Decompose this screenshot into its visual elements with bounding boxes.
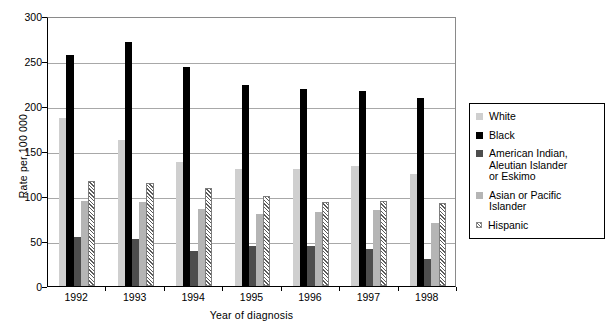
y-tick-mark [42, 17, 47, 18]
bar [263, 196, 270, 286]
legend-item: Hispanic [476, 220, 599, 232]
y-tick-label: 250 [16, 57, 42, 67]
legend-item-label: Hispanic [488, 220, 528, 232]
bar [366, 249, 373, 286]
bar [380, 201, 387, 286]
y-tick-label: 200 [16, 102, 42, 112]
x-tick-mark [398, 287, 399, 291]
y-tick-mark [42, 197, 47, 198]
x-tick-label: 1998 [398, 291, 456, 303]
bar-group [118, 18, 154, 286]
bar [315, 212, 322, 286]
bar [322, 202, 329, 286]
chart-legend: WhiteBlackAmerican Indian, Aleutian Isla… [469, 103, 605, 239]
bar [66, 55, 73, 286]
y-axis-tick-labels: 050100150200250300 [12, 0, 42, 329]
x-tick-mark [222, 287, 223, 291]
y-tick-mark [42, 62, 47, 63]
legend-swatch-icon [476, 192, 483, 199]
y-tick-mark [42, 287, 47, 288]
bar-group [59, 18, 95, 286]
legend-swatch-icon [476, 132, 483, 139]
plot-area [47, 17, 456, 287]
bar-group [293, 18, 329, 286]
legend-item-label: American Indian, Aleutian Islander or Es… [489, 148, 568, 183]
y-tick-label: 0 [16, 282, 42, 292]
y-tick-label: 50 [16, 237, 42, 247]
bar-group [410, 18, 446, 286]
legend-swatch-icon [476, 113, 483, 120]
legend-swatch-icon [476, 222, 482, 228]
legend-item-label: Black [489, 130, 515, 142]
x-tick-label: 1993 [105, 291, 163, 303]
x-axis-title: Year of diagnosis [47, 309, 456, 321]
y-tick-label: 300 [16, 12, 42, 22]
bar [410, 174, 417, 286]
bar [176, 162, 183, 286]
bar [417, 98, 424, 286]
bar [373, 210, 380, 286]
bar [146, 183, 153, 287]
bar-group [235, 18, 271, 286]
bar [139, 202, 146, 286]
bar [190, 251, 197, 286]
x-tick-mark [105, 287, 106, 291]
bar [256, 214, 263, 286]
bar [132, 239, 139, 286]
bar-group [176, 18, 212, 286]
bar [74, 237, 81, 287]
x-tick-label: 1997 [339, 291, 397, 303]
bar [235, 169, 242, 286]
bar-group [351, 18, 387, 286]
bar [359, 91, 366, 286]
y-tick-label: 150 [16, 147, 42, 157]
x-tick-label: 1996 [281, 291, 339, 303]
legend-item-label: White [489, 111, 516, 123]
bar [198, 209, 205, 286]
bar [351, 166, 358, 286]
bar [424, 259, 431, 286]
bar [242, 85, 249, 286]
bar [439, 203, 446, 286]
bar [307, 246, 314, 287]
legend-item-label: Asian or Pacific Islander [489, 190, 599, 213]
x-tick-label: 1992 [47, 291, 105, 303]
y-tick-mark [42, 242, 47, 243]
bar [300, 89, 307, 286]
legend-swatch-icon [476, 150, 483, 157]
legend-item: American Indian, Aleutian Islander or Es… [476, 148, 599, 183]
bar [88, 181, 95, 286]
bar [205, 188, 212, 286]
x-tick-label: 1995 [222, 291, 280, 303]
x-axis-tick-labels: 1992199319941995199619971998 [47, 291, 456, 307]
y-tick-mark [42, 107, 47, 108]
legend-item: White [476, 111, 599, 123]
bar [118, 140, 125, 286]
bar [125, 42, 132, 286]
x-tick-label: 1994 [164, 291, 222, 303]
bar [81, 201, 88, 287]
bar [59, 118, 66, 286]
y-tick-mark [42, 152, 47, 153]
y-tick-label: 100 [16, 192, 42, 202]
bar [431, 223, 438, 286]
bar-chart: Rate per 100 000 050100150200250300 1992… [0, 0, 611, 329]
x-tick-mark [164, 287, 165, 291]
bar [293, 169, 300, 286]
x-tick-mark [339, 287, 340, 291]
legend-item: Black [476, 130, 599, 142]
legend-item: Asian or Pacific Islander [476, 190, 599, 213]
bar [183, 67, 190, 286]
x-tick-mark [456, 287, 457, 291]
bar [249, 246, 256, 287]
bars-layer [48, 18, 455, 286]
x-tick-mark [281, 287, 282, 291]
